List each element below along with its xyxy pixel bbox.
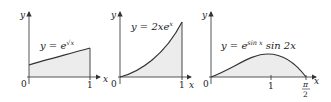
origin-label: 0	[21, 79, 27, 89]
graph-panel-1: y x 0 1 y = e√x	[19, 10, 108, 90]
graph-panel-2: y x 0 1 y = 2xex	[110, 10, 194, 90]
figure-three-graphs: y x 0 1 y = e√x y x 0 1 y = 2xex y x 0 1…	[0, 0, 331, 102]
y-axis-label: y	[201, 10, 208, 20]
equation-label: y = e√x	[39, 39, 74, 51]
y-axis-label: y	[110, 10, 117, 20]
tick-label-1: 1	[179, 80, 185, 90]
y-axis-label: y	[19, 10, 26, 20]
x-axis-label: x	[189, 80, 194, 90]
equation-label: y = 2xex	[130, 20, 173, 32]
origin-label: 0	[111, 79, 117, 89]
x-axis-label: x	[103, 74, 108, 84]
tick-label-pi: π	[302, 80, 309, 89]
tick-label-1: 1	[268, 81, 274, 91]
graph-panel-3: y x 0 1 π 2 y = esin x sin 2x	[201, 10, 319, 99]
tick-label-1: 1	[87, 80, 93, 90]
x-axis-label: x	[314, 76, 319, 86]
tick-label-2: 2	[303, 90, 308, 99]
origin-label: 0	[203, 79, 209, 89]
equation-label: y = esin x sin 2x	[220, 39, 296, 51]
shaded-region	[211, 54, 306, 77]
